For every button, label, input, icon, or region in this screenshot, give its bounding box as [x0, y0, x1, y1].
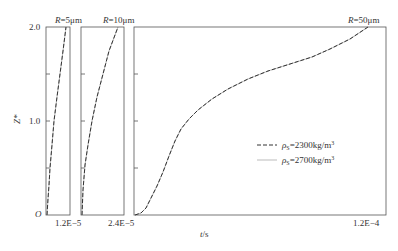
- panel-r10-frame: [81, 27, 124, 215]
- y-tick-1: 1.0: [29, 116, 41, 126]
- panel-r5-title: R=5μm: [54, 15, 82, 25]
- panel-r50-frame: [134, 27, 386, 215]
- x-end-r5: 1.2E−5: [55, 218, 82, 228]
- figure: R=5μm R=10μm R=50μm 2.0 1.0 O Z* 1.2E−5 …: [0, 0, 398, 251]
- x-end-r50: 1.2E−4: [353, 218, 380, 228]
- y-tick-2: 2.0: [29, 22, 41, 32]
- panel-r50-curve-2300: [135, 27, 368, 215]
- legend-item-2700: ρS=2700kg/m3: [281, 155, 334, 166]
- panel-r50-curve-2700: [135, 27, 368, 215]
- panel-r50-title: R=50μm: [347, 15, 379, 25]
- y-tick-origin: O: [35, 209, 42, 219]
- legend: ρS=2300kg/m3 ρS=2700kg/m3: [257, 140, 334, 166]
- panel-r10-title: R=10μm: [102, 15, 134, 25]
- x-end-r10: 2.4E−5: [108, 218, 135, 228]
- x-axis-label: t/s: [200, 229, 209, 239]
- y-axis-label: Z*: [12, 114, 22, 124]
- panel-r10-curve-2700: [82, 27, 118, 215]
- legend-item-2300: ρS=2300kg/m3: [281, 140, 334, 151]
- panel-r10-curve-2300: [82, 27, 118, 215]
